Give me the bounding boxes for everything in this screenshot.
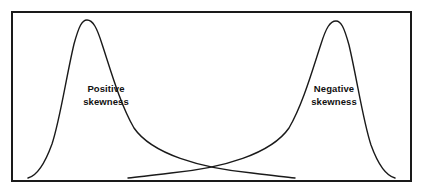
positive-skewness-label: Positive skewness: [64, 83, 148, 108]
negative-skewness-label-line1: Negative: [289, 83, 379, 96]
negative-skewness-label: Negative skewness: [289, 83, 379, 108]
skewness-figure: Positive skewness Negative skewness: [0, 0, 423, 195]
positive-skewness-label-line2: skewness: [64, 96, 148, 109]
positive-skewness-label-line1: Positive: [64, 83, 148, 96]
negative-skewness-label-line2: skewness: [289, 96, 379, 109]
